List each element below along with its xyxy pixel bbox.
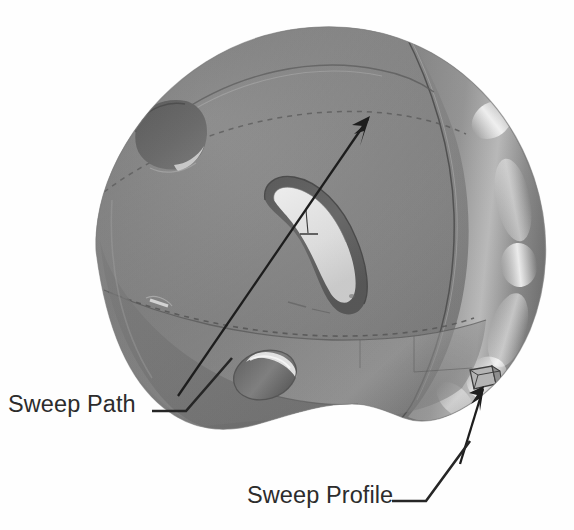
sweep-path-leader — [152, 358, 232, 411]
sweep-path-label: Sweep Path — [8, 391, 136, 417]
figure-canvas: Sweep Path Sweep Profile — [0, 0, 574, 530]
sweep-profile-leader — [392, 441, 470, 501]
sweep-profile-label: Sweep Profile — [247, 482, 393, 508]
callouts-layer: Sweep Path Sweep Profile — [0, 0, 574, 530]
